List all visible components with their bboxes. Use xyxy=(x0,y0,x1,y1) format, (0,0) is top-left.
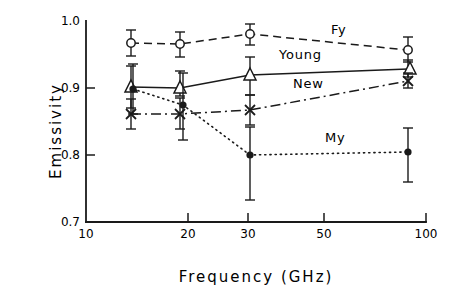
x-tick-label-20: 20 xyxy=(170,227,206,241)
my-point-3 xyxy=(246,151,253,158)
y-axis-title: Emissivity xyxy=(47,31,65,231)
y-axis-ticks xyxy=(86,88,95,155)
my-point-4 xyxy=(404,148,411,155)
x-tick-label-100: 100 xyxy=(406,227,446,241)
series-new-line xyxy=(131,81,408,114)
series-young-line xyxy=(131,69,408,88)
series-my-errorbars xyxy=(128,64,413,200)
series-my xyxy=(128,64,413,200)
series-label-fy: Fy xyxy=(331,22,347,37)
series-my-line xyxy=(133,89,408,155)
x-tick-label-30: 30 xyxy=(230,227,266,241)
x-axis-ticks xyxy=(188,213,426,222)
series-fy-errorbars xyxy=(126,24,413,62)
x-tick-label-10: 10 xyxy=(68,227,104,241)
axis-lines xyxy=(86,21,426,222)
fy-point-4 xyxy=(404,46,412,54)
y-tick-label-1.0: 1.0 xyxy=(46,14,80,28)
series-new-markers xyxy=(126,76,413,119)
series-label-young: Young xyxy=(279,47,322,62)
fy-point-3 xyxy=(246,30,254,38)
fy-point-1 xyxy=(127,39,135,47)
my-point-1 xyxy=(129,85,136,92)
my-point-2 xyxy=(179,101,186,108)
series-fy xyxy=(126,24,413,62)
series-label-my: My xyxy=(325,130,346,145)
series-fy-line xyxy=(131,34,408,50)
x-axis-title: Frequency (GHz) xyxy=(86,268,426,286)
emissivity-vs-frequency-figure: 1.0 0.9 0.8 0.7 10 20 30 50 100 Fy Young… xyxy=(0,0,453,299)
young-point-4 xyxy=(404,62,416,74)
young-point-3 xyxy=(244,68,256,80)
series-fy-markers xyxy=(127,30,412,54)
fy-point-2 xyxy=(176,40,184,48)
x-tick-label-50: 50 xyxy=(306,227,342,241)
series-my-markers xyxy=(129,85,411,158)
series-label-new: New xyxy=(293,76,324,91)
